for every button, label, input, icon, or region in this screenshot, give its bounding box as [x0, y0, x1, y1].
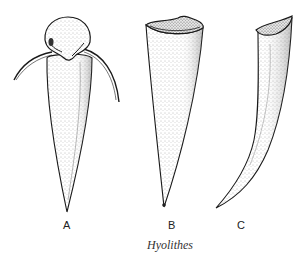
hyolithes-illustration: [0, 0, 307, 263]
specimen-b: [146, 16, 203, 207]
specimen-label-c: C: [237, 219, 245, 231]
specimen-label-a: A: [63, 219, 70, 231]
specimen-label-b: B: [168, 219, 175, 231]
specimen-a: [14, 17, 119, 212]
specimen-c: [216, 16, 292, 208]
figure-caption: Hyolithes: [147, 238, 193, 253]
